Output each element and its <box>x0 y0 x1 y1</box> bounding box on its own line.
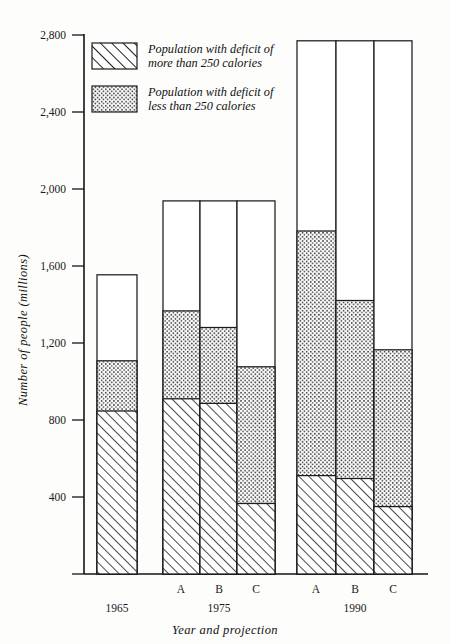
xlabel-year-1990: 1990 <box>344 602 367 614</box>
legend-label-less-line1: Population with deficit of <box>147 85 275 99</box>
bar-1990-A-group[interactable] <box>297 41 336 574</box>
ytick-label-1600: 1,600 <box>40 260 66 273</box>
ytick-label-400: 400 <box>49 491 67 503</box>
xlabel-year-1965: 1965 <box>106 602 129 614</box>
bar-1990-C-segment-more250 <box>374 507 412 574</box>
stacked-bar-chart: 400 800 1,200 1,600 2,000 2,400 2,800 Nu… <box>0 0 450 644</box>
bar-1975-B-segment-more250 <box>200 403 237 574</box>
x-axis-title: Year and projection <box>172 623 278 637</box>
xlabel-1975-C: C <box>252 583 260 595</box>
xlabel-1990-C: C <box>389 583 397 595</box>
legend-item-less-than-250[interactable]: Population with deficit of less than 250… <box>92 85 275 113</box>
ytick-label-2400: 2,400 <box>40 106 66 119</box>
ytick-label-2800: 2,800 <box>40 29 66 42</box>
xlabel-year-1975: 1975 <box>208 602 231 614</box>
bar-1990-B-group[interactable] <box>336 41 374 574</box>
y-axis-title: Number of people (millions) <box>16 254 30 407</box>
chart-container: 400 800 1,200 1,600 2,000 2,400 2,800 Nu… <box>0 0 450 644</box>
legend-label-less-line2: less than 250 calories <box>148 99 256 113</box>
legend-item-more-than-250[interactable]: Population with deficit of more than 250… <box>92 42 275 70</box>
bar-1990-B-segment-more250 <box>336 479 374 575</box>
ytick-label-2000: 2,000 <box>40 183 66 196</box>
ytick-label-800: 800 <box>49 414 67 426</box>
xlabel-1990-A: A <box>312 583 321 595</box>
xlabel-1975-B: B <box>215 583 223 595</box>
bar-1990-A-segment-more250 <box>297 476 336 574</box>
bar-1990-C-group[interactable] <box>374 41 412 574</box>
legend-swatch-dotted <box>92 86 137 112</box>
bar-1975-A-group[interactable] <box>163 201 200 574</box>
bar-1965-group[interactable] <box>97 275 137 574</box>
legend-label-more-line1: Population with deficit of <box>147 42 275 56</box>
xlabel-1975-A: A <box>177 583 186 595</box>
bar-1975-C-group[interactable] <box>237 201 275 574</box>
bar-1965-segment-more250 <box>97 411 137 574</box>
bar-1975-B-group[interactable] <box>200 201 237 574</box>
ytick-label-1200: 1,200 <box>40 337 66 350</box>
bar-1975-A-segment-more250 <box>163 399 200 574</box>
xlabel-1990-B: B <box>351 583 359 595</box>
legend-swatch-hatched <box>92 43 137 69</box>
bar-1975-C-segment-more250 <box>237 504 275 575</box>
legend-label-more-line2: more than 250 calories <box>148 56 262 70</box>
